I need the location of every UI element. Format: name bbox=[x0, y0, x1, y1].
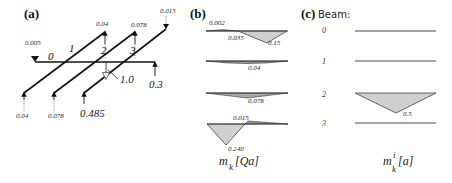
panel-c-superscript: i bbox=[393, 150, 396, 160]
panel-a-label: (a) bbox=[24, 6, 39, 21]
reaction-bottom-beam-1: 0.04 bbox=[16, 112, 29, 120]
beam-3-value-max: 0.240 bbox=[228, 145, 244, 153]
panel-b-quantity-label: m k [Qa] bbox=[219, 154, 259, 172]
figure-canvas: (a) 0 1 2 3 1.0 0.005 bbox=[0, 0, 452, 183]
panel-b: (b) 0.002 0.035 0.15 0.04 0.078 0.0 bbox=[190, 6, 288, 172]
beam-0-value-max: 0.15 bbox=[268, 39, 281, 47]
beam-0-left-support-icon bbox=[31, 56, 39, 62]
panel-c-quantity-label: m i k [a] bbox=[383, 150, 414, 174]
beam-0-value-left: 0.002 bbox=[209, 19, 225, 27]
moment-diagram-beam-2: 0.078 bbox=[206, 93, 288, 105]
panel-c: (c) Beam: 0 1 2 0.5 3 m i k [a] bbox=[301, 6, 436, 174]
beam-1-value: 0.04 bbox=[248, 64, 261, 72]
panel-c-beam-2-value: 0.5 bbox=[403, 110, 412, 118]
reaction-right-beam-0: 0.3 bbox=[149, 78, 163, 90]
panel-c-symbol: m bbox=[383, 154, 392, 168]
beam-2-value: 0.078 bbox=[248, 97, 264, 105]
panel-c-beam-number-2: 2 bbox=[322, 90, 326, 99]
beam-3-top-support-icon bbox=[163, 24, 169, 29]
panel-c-beam-number-0: 0 bbox=[322, 26, 326, 35]
panel-b-symbol: m bbox=[219, 154, 228, 168]
panel-b-subscript: k bbox=[229, 162, 234, 172]
reaction-top-beam-2: 0.078 bbox=[131, 21, 147, 29]
panel-b-unit: [Qa] bbox=[235, 154, 259, 168]
panel-c-beam-number-3: 3 bbox=[321, 119, 326, 128]
beam-number-1: 1 bbox=[69, 42, 75, 54]
panel-c-unit: [a] bbox=[398, 154, 414, 168]
reaction-bottom-beam-2: 0.078 bbox=[48, 112, 64, 120]
load-value: 1.0 bbox=[120, 73, 134, 85]
moment-diagram-beam-3: 0.015 0.240 bbox=[207, 114, 288, 153]
beam-number-0: 0 bbox=[48, 50, 54, 62]
panel-c-subscript: k bbox=[392, 164, 397, 174]
beam-number-3: 3 bbox=[129, 44, 136, 56]
panel-b-label: (b) bbox=[190, 6, 206, 21]
panel-a: (a) 0 1 2 3 1.0 0.005 bbox=[16, 6, 176, 120]
reaction-top-beam-3: 0.015 bbox=[160, 7, 176, 15]
moment-diagram-beam-1: 0.04 bbox=[206, 61, 288, 72]
reaction-top-beam-0: 0.005 bbox=[25, 39, 41, 47]
moment-diagram-beam-0: 0.002 0.035 0.15 bbox=[206, 19, 288, 47]
beam-3-value-top: 0.015 bbox=[233, 114, 249, 122]
panel-c-beam-2-moment bbox=[355, 93, 436, 113]
beam-number-2: 2 bbox=[101, 44, 107, 56]
panel-c-beam-number-1: 1 bbox=[322, 57, 326, 66]
reaction-top-beam-1: 0.04 bbox=[96, 20, 109, 28]
panel-c-title: Beam: bbox=[318, 9, 350, 20]
panel-c-label: (c) bbox=[301, 6, 315, 21]
beam-0-value-mid: 0.035 bbox=[228, 34, 244, 42]
reaction-bottom-beam-3: 0.485 bbox=[80, 107, 105, 119]
